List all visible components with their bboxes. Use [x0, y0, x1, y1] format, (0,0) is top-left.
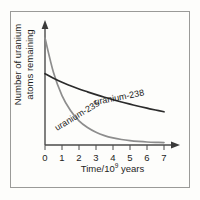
x-tick-label: 6 [144, 152, 149, 163]
x-axis-title-main: Time/10 [81, 163, 115, 174]
y-axis-title-line1: Number of uranium [12, 14, 24, 116]
x-tick-label: 0 [42, 152, 47, 163]
axis-arrow-up-icon [42, 20, 49, 29]
uranium-decay-figure: 0 1 2 3 4 5 6 7 uranium-238 uranium-235 … [0, 0, 200, 200]
x-axis-title-tail: years [118, 163, 144, 174]
uranium-238-label: uranium-238 [93, 88, 145, 107]
x-tick-label: 1 [59, 152, 64, 163]
x-tick-label: 5 [127, 152, 132, 163]
axis-arrow-right-icon [171, 142, 180, 149]
uranium-238-curve [45, 74, 164, 112]
x-tick-label: 2 [76, 152, 81, 163]
x-tick-label: 3 [93, 152, 98, 163]
x-tick-marks [45, 145, 164, 150]
x-tick-label: 7 [161, 152, 166, 163]
x-axis-title: Time/109 years [40, 163, 185, 174]
y-axis-title-line2: atoms remaining [23, 14, 35, 116]
y-axis-title: Number of uranium atoms remaining [12, 14, 35, 116]
uranium-235-label: uranium-235 [53, 98, 101, 133]
